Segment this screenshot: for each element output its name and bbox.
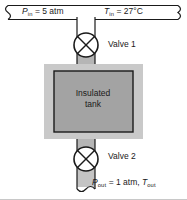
inlet-pressure-label: Pin = 5 atm bbox=[22, 7, 64, 17]
inlet-temperature-value: = 27°C bbox=[116, 6, 142, 16]
valve-2-label: Valve 2 bbox=[108, 152, 136, 161]
outlet-pressure-value: = 1 atm, bbox=[109, 177, 140, 187]
inlet-temperature-subscript: in bbox=[109, 11, 114, 17]
outlet-temperature-subscript: out bbox=[147, 182, 156, 188]
inlet-pressure-subscript: in bbox=[28, 11, 33, 17]
inlet-pressure-value: = 5 atm bbox=[35, 6, 64, 16]
thermodynamics-diagram: Pin = 5 atm Tin = 27°C Valve 1 Valve 2 I… bbox=[0, 0, 187, 200]
valve-1-symbol[interactable] bbox=[74, 33, 98, 57]
inlet-temperature-label: Tin = 27°C bbox=[104, 7, 143, 17]
valve-2-symbol[interactable] bbox=[74, 147, 98, 171]
valve-1-label: Valve 1 bbox=[108, 40, 136, 49]
tank-label-line-2: tank bbox=[57, 99, 129, 110]
outlet-pressure-subscript: out bbox=[98, 182, 107, 188]
header-break-right-icon bbox=[178, 6, 181, 20]
outlet-conditions-label: Pout = 1 atm, Tout bbox=[92, 178, 156, 188]
header-break-left-icon bbox=[6, 6, 11, 20]
tank-label: Insulated tank bbox=[57, 88, 129, 109]
tank-label-line-1: Insulated bbox=[57, 88, 129, 99]
